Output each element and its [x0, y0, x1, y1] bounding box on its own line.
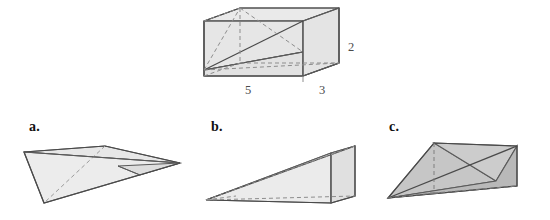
figure-canvas	[0, 0, 550, 220]
choice-b-front-face	[206, 153, 331, 203]
dimension-label-height: 2	[348, 41, 354, 54]
rectangular-prism	[204, 8, 339, 82]
choice-label-b: b.	[211, 120, 223, 134]
geometry-figure: a. b. c. 5 3 2	[0, 0, 550, 220]
choice-c-solid	[388, 143, 517, 198]
choice-b-solid	[206, 146, 355, 203]
choice-a-solid	[24, 146, 180, 203]
choice-label-a: a.	[29, 120, 40, 134]
choice-label-c: c.	[389, 120, 399, 134]
dimension-label-width: 3	[319, 84, 325, 97]
dimension-label-length: 5	[245, 84, 251, 97]
choice-b-right-face	[331, 146, 355, 203]
